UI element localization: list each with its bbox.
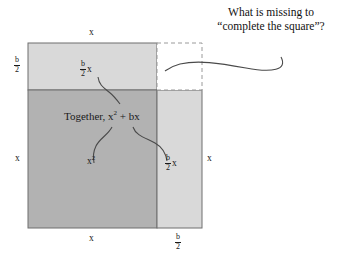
exponent-2: 2 xyxy=(92,154,96,162)
top-strip-label: b 2 x xyxy=(80,60,92,79)
variable-x: x xyxy=(87,65,92,75)
missing-square-region xyxy=(157,43,202,90)
fraction-denominator: 2 xyxy=(80,70,86,78)
right-edge-label-x: x xyxy=(207,154,212,164)
callout-line-1: What is missing to xyxy=(186,5,356,19)
together-expression-label: Together, x2 + bx xyxy=(64,111,140,122)
fraction-numerator: b xyxy=(175,233,181,241)
fraction-denominator: 2 xyxy=(175,243,181,251)
variable-x: x xyxy=(172,159,177,169)
bottom-edge-label-half-b: b 2 xyxy=(175,234,181,252)
fraction-denominator: 2 xyxy=(165,164,171,172)
fraction-b-over-2: b 2 xyxy=(14,56,20,74)
together-tail: + bx xyxy=(117,110,140,122)
x-squared-label: x2 xyxy=(87,157,95,167)
fraction-b-over-2: b 2 xyxy=(80,60,86,78)
right-strip-label: b 2 x xyxy=(165,154,177,173)
top-edge-label-x: x xyxy=(89,28,94,38)
top-strip-region xyxy=(28,43,157,90)
right-strip-region xyxy=(157,90,202,228)
fraction-numerator: b xyxy=(14,56,20,64)
callout-question: What is missing to “complete the square”… xyxy=(186,5,356,34)
bottom-edge-label-x: x xyxy=(89,234,94,244)
left-edge-label-half-b: b 2 xyxy=(14,57,20,75)
callout-line-2: “complete the square”? xyxy=(186,19,356,33)
completing-the-square-figure: What is missing to “complete the square”… xyxy=(0,0,360,271)
left-edge-label-x: x xyxy=(15,154,20,164)
fraction-denominator: 2 xyxy=(14,66,20,74)
fraction-b-over-2: b 2 xyxy=(175,233,181,251)
fraction-b-over-2: b 2 xyxy=(165,154,171,172)
fraction-numerator: b xyxy=(80,60,86,68)
fraction-numerator: b xyxy=(165,154,171,162)
figure-svg xyxy=(0,0,360,271)
together-text: Together, x xyxy=(64,110,114,122)
